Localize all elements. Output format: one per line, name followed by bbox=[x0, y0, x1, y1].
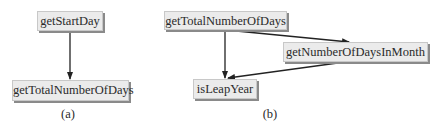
node-a-gettotalnumberofdays: getTotalNumberOfDays bbox=[12, 80, 129, 101]
node-label: getStartDay bbox=[40, 14, 100, 28]
caption-a: (a) bbox=[50, 107, 86, 122]
edge-b-getnumberofdaysinmonth-to-isleapyear bbox=[228, 62, 345, 78]
node-a-getstartday: getStartDay bbox=[37, 11, 103, 31]
caption-b: (b) bbox=[252, 107, 288, 122]
node-label: getTotalNumberOfDays bbox=[165, 14, 286, 28]
node-label: getNumberOfDaysInMonth bbox=[286, 45, 425, 59]
edge-b-gettotalnumberofdays-to-getnumberofdaysinmonth bbox=[226, 30, 349, 42]
node-label: isLeapYear bbox=[197, 82, 253, 96]
node-b-getnumberofdaysinmonth: getNumberOfDaysInMonth bbox=[283, 42, 428, 62]
node-b-isleapyear: isLeapYear bbox=[193, 79, 257, 99]
node-label: getTotalNumberOfDays bbox=[13, 83, 134, 97]
node-b-gettotalnumberofdays: getTotalNumberOfDays bbox=[164, 11, 287, 30]
